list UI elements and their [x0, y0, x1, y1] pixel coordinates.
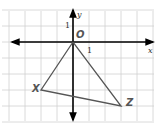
- graph-svg: x y 1 1 O X Z: [0, 0, 166, 128]
- coordinate-plane-diagram: x y 1 1 O X Z: [0, 0, 166, 128]
- point-o-label: O: [76, 29, 85, 40]
- x-tick-one: 1: [87, 46, 92, 55]
- x-axis-label: x: [148, 46, 153, 55]
- y-tick-one: 1: [65, 21, 70, 30]
- point-x-label: X: [31, 83, 41, 94]
- point-z-label: Z: [125, 97, 134, 108]
- y-axis-label: y: [76, 10, 82, 19]
